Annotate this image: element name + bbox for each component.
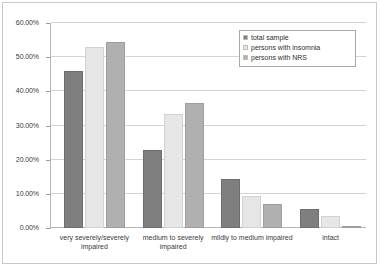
y-axis-tick-label: 0.00% [0, 224, 39, 231]
y-axis-tick-label: 10.00% [0, 190, 39, 197]
x-axis-category-label: medium to severely impaired [131, 234, 215, 251]
bar[interactable] [221, 179, 240, 228]
bar[interactable] [164, 114, 183, 228]
bar[interactable] [143, 150, 162, 228]
bar[interactable] [342, 226, 361, 228]
legend-item-label: persons with insomnia [251, 44, 320, 51]
legend-swatch-icon [243, 55, 248, 60]
bar[interactable] [263, 204, 282, 228]
y-axis-tick-label: 50.00% [0, 53, 39, 60]
legend-item-label: persons with NRS [251, 54, 307, 61]
legend-swatch-icon [243, 35, 248, 40]
legend-swatch-icon [243, 45, 248, 50]
bar[interactable] [106, 42, 125, 228]
y-axis-tick-label: 40.00% [0, 87, 39, 94]
y-axis-tick-label: 60.00% [0, 19, 39, 26]
y-axis-tick-label: 20.00% [0, 156, 39, 163]
bar-group [64, 23, 125, 228]
legend-item[interactable]: persons with NRS [243, 53, 352, 62]
bar[interactable] [185, 103, 204, 228]
bar-group [143, 23, 204, 228]
x-axis-category-label: mildly to medium impaired [210, 234, 294, 243]
bar[interactable] [300, 209, 319, 228]
bar[interactable] [321, 216, 340, 228]
x-axis-category-label: intact [289, 234, 373, 243]
legend-item-label: total sample [251, 34, 289, 41]
bar[interactable] [242, 196, 261, 228]
bar[interactable] [85, 47, 104, 228]
legend-item[interactable]: persons with insomnia [243, 43, 352, 52]
chart-frame: 0.00%10.00%20.00%30.00%40.00%50.00%60.00… [2, 2, 377, 264]
bar[interactable] [64, 71, 83, 228]
y-axis-tick-label: 30.00% [0, 122, 39, 129]
chart-legend: total samplepersons with insomniapersons… [239, 30, 356, 67]
legend-item[interactable]: total sample [243, 33, 352, 42]
x-axis-category-label: very severely/severely impaired [52, 234, 136, 251]
